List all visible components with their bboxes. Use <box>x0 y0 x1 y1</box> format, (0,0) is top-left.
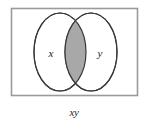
venn-diagram-canvas: x y xy <box>0 0 149 123</box>
venn-diagram-figure: x y xy <box>0 0 149 123</box>
set-x-label: x <box>48 47 54 59</box>
figure-caption: xy <box>68 106 79 118</box>
set-y-label: y <box>97 47 103 59</box>
